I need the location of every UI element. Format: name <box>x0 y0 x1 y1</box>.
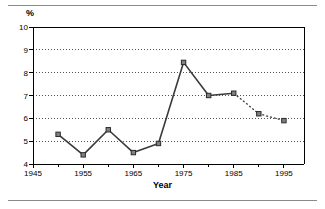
y-axis-tick-label: 6 <box>8 114 28 123</box>
data-point-marker <box>81 153 85 157</box>
y-axis-tick-label: 5 <box>8 137 28 146</box>
data-point-marker <box>106 128 110 132</box>
x-axis-tick-label: 1995 <box>275 169 293 178</box>
x-axis-tick-label: 1965 <box>124 169 142 178</box>
y-axis-tick-label: 10 <box>8 23 28 32</box>
data-point-marker <box>56 132 60 136</box>
data-point-marker <box>181 60 185 64</box>
data-point-marker <box>282 118 286 122</box>
y-axis-tick-label: 4 <box>8 160 28 169</box>
data-point-marker <box>131 150 135 154</box>
y-axis-tick-label: 8 <box>8 68 28 77</box>
series-line-projected <box>234 93 284 120</box>
data-point-marker <box>232 91 236 95</box>
y-axis-tick-label: 7 <box>8 91 28 100</box>
figure-container: % Year 19451955196519751985199545678910 <box>0 0 325 209</box>
data-point-marker <box>257 112 261 116</box>
x-axis-tick-label: 1955 <box>74 169 92 178</box>
x-axis-tick-label: 1945 <box>24 169 42 178</box>
x-axis-tick-label: 1975 <box>175 169 193 178</box>
y-axis-tick-label: 9 <box>8 45 28 54</box>
data-point-marker <box>206 93 210 97</box>
data-point-marker <box>156 141 160 145</box>
x-axis-tick-label: 1985 <box>225 169 243 178</box>
